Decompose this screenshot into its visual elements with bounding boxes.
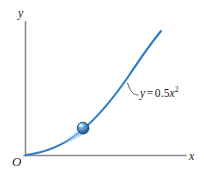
moving-ball-highlight	[79, 124, 83, 127]
equation-coefficient: 0.5	[155, 87, 170, 99]
y-axis-label: y	[18, 7, 23, 19]
equation-leader-line	[128, 83, 139, 95]
x-axis-label: x	[189, 150, 194, 162]
origin-label: O	[12, 155, 21, 168]
parabola-figure: y x O y=0.5x2	[0, 0, 204, 177]
equation-operator: =	[145, 87, 155, 99]
moving-ball	[77, 122, 88, 133]
equation-exponent: 2	[175, 85, 179, 94]
curve-equation-label: y=0.5x2	[140, 88, 179, 100]
